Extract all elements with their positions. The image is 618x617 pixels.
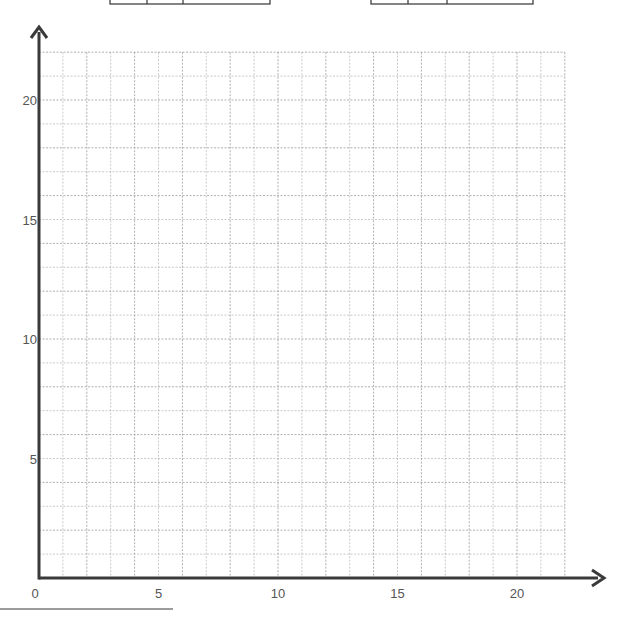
y-tick-label: 10 [23,332,37,347]
y-tick-label: 5 [30,452,37,467]
x-tick-label: 10 [271,586,285,601]
x-tick-label: 0 [31,586,38,601]
x-tick-label: 15 [390,586,404,601]
x-tick-label: 5 [155,586,162,601]
coordinate-grid-chart: 051015205101520 [0,0,618,617]
y-tick-label: 15 [23,213,37,228]
x-tick-label: 20 [510,586,524,601]
y-tick-label: 20 [23,93,37,108]
table-box-2 [371,0,533,4]
table-box-1 [110,0,270,4]
